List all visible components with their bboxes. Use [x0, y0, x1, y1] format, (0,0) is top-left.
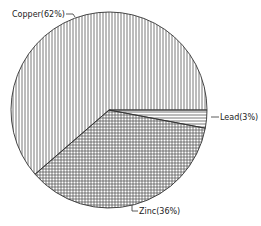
svg-text:Lead(3%): Lead(3%) [220, 113, 258, 122]
pie-chart: Copper(62%) Lead(3%) Zinc(36%) [0, 0, 261, 226]
label-lead: Lead(3%) [211, 113, 258, 122]
svg-text:Zinc(36%): Zinc(36%) [139, 207, 180, 216]
label-zinc: Zinc(36%) [132, 205, 180, 216]
label-copper: Copper(62%) [12, 10, 75, 19]
pie-slices [11, 12, 207, 208]
svg-text:Copper(62%): Copper(62%) [12, 10, 65, 19]
